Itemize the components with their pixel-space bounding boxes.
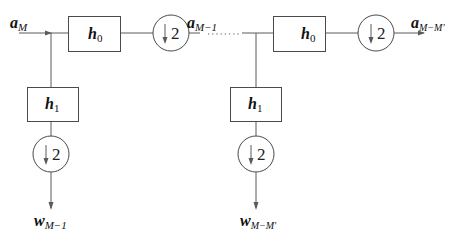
detail-output-arrowhead-icon — [49, 202, 54, 210]
downsampler-branch-stage2: 2 — [238, 136, 274, 172]
lowpass-filter-h0-stage1: h0 — [69, 17, 121, 52]
filter-bank-diagram: aM h0 2 aM−1 h1 — [0, 0, 456, 238]
detail-output-label-2: wM−M′ — [240, 212, 277, 231]
highpass-filter-h1-stage1: h1 — [28, 88, 79, 122]
downsampler-main-stage2: 2 — [358, 15, 394, 51]
input-signal-label: aM — [10, 14, 28, 33]
svg-text:2: 2 — [377, 24, 386, 43]
intermediate-signal-label: aM−1 — [187, 14, 217, 33]
output-signal-label: aM−M′ — [411, 14, 445, 33]
downsampler-main-stage1: 2 — [153, 15, 189, 51]
highpass-filter-h1-stage2: h1 — [231, 88, 282, 122]
downsampler-branch-stage1: 2 — [33, 136, 69, 172]
detail-output-label-1: wM−1 — [34, 212, 67, 231]
svg-text:2: 2 — [52, 145, 61, 164]
svg-text:2: 2 — [257, 145, 266, 164]
lowpass-filter-h0-stage2: h0 — [274, 17, 326, 52]
detail-output-arrowhead-icon — [254, 202, 259, 210]
svg-text:2: 2 — [171, 24, 180, 43]
